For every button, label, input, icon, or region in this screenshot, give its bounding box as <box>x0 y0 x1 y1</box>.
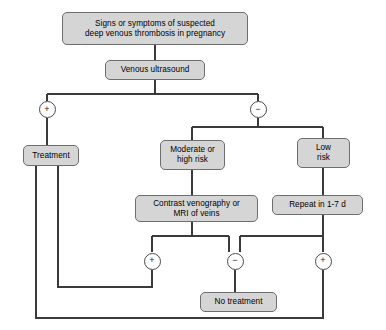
node-venography-line2: MRI of veins <box>153 209 240 219</box>
decision-venography-negative: − <box>227 253 244 270</box>
edge-venography-plus-to-treatment <box>58 166 152 287</box>
node-no-treatment: No treatment <box>200 292 277 312</box>
decision-repeat-positive: + <box>315 253 332 270</box>
node-moderate-line1: Moderate or <box>170 145 215 155</box>
node-no-treatment-label: No treatment <box>215 297 263 307</box>
decision-venography-positive: + <box>144 253 161 270</box>
decision-ultrasound-negative-symbol: − <box>255 105 260 114</box>
node-treatment-label: Treatment <box>32 151 69 161</box>
node-repeat-in-1-7-days: Repeat in 1-7 d <box>272 195 363 215</box>
node-contrast-venography: Contrast venography or MRI of veins <box>135 195 258 222</box>
edge-repeat-plus-to-treatment <box>36 166 323 318</box>
dvt-pregnancy-flowchart: Signs or symptoms of suspected deep veno… <box>0 0 386 330</box>
node-repeat-label: Repeat in 1-7 d <box>289 200 346 210</box>
node-ultrasound-label: Venous ultrasound <box>121 65 190 75</box>
node-venography-line1: Contrast venography or <box>153 199 240 209</box>
decision-repeat-positive-symbol: + <box>320 256 325 265</box>
node-low-risk-line1: Low <box>316 143 331 153</box>
node-moderate-high-risk: Moderate or high risk <box>160 140 225 170</box>
node-signs-line1: Signs or symptoms of suspected <box>85 19 225 29</box>
decision-ultrasound-positive: + <box>39 101 56 118</box>
node-signs-line2: deep venous thrombosis in pregnancy <box>85 29 225 39</box>
node-treatment: Treatment <box>23 145 79 166</box>
decision-ultrasound-positive-symbol: + <box>44 105 49 114</box>
decision-venography-positive-symbol: + <box>149 256 154 265</box>
node-moderate-line2: high risk <box>170 155 215 165</box>
decision-ultrasound-negative: − <box>250 101 267 118</box>
node-low-risk-line2: risk <box>316 153 331 163</box>
node-low-risk: Low risk <box>297 138 350 168</box>
node-venous-ultrasound: Venous ultrasound <box>105 60 205 80</box>
node-signs-symptoms: Signs or symptoms of suspected deep veno… <box>62 12 248 45</box>
decision-venography-negative-symbol: − <box>232 256 237 265</box>
